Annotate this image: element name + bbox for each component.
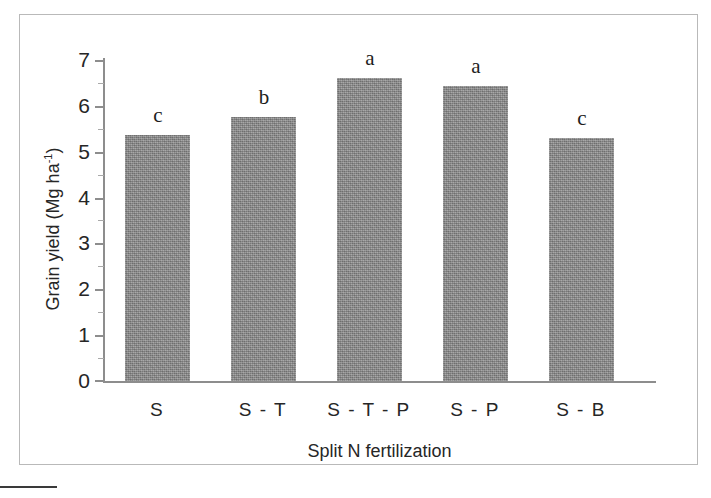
x-axis-title: Split N fertilization xyxy=(103,441,656,462)
bar-s[interactable] xyxy=(125,135,190,381)
x-label-s-p: S - P xyxy=(415,400,535,419)
significance-letter-s-t-p: a xyxy=(340,48,400,69)
x-label-s-t-p: S - T - P xyxy=(309,400,429,419)
bar-s-p[interactable] xyxy=(443,86,508,381)
bar-s-t[interactable] xyxy=(231,117,296,381)
bar-s-t-p[interactable] xyxy=(337,78,402,381)
bottom-rule xyxy=(0,486,57,488)
x-label-s: S xyxy=(97,400,217,419)
significance-letter-s: c xyxy=(128,105,188,126)
x-axis-line xyxy=(103,381,656,383)
significance-letter-s-b: c xyxy=(552,108,612,129)
significance-letter-s-p: a xyxy=(446,56,506,77)
bar-s-b[interactable] xyxy=(549,138,614,381)
x-label-s-b: S - B xyxy=(521,400,641,419)
x-label-s-t: S - T xyxy=(203,400,323,419)
significance-letter-s-t: b xyxy=(234,87,294,108)
bar-chart-plot: 7 6 5 4 3 2 1 0 Grain yield (Mg ha-1) c … xyxy=(0,0,711,498)
